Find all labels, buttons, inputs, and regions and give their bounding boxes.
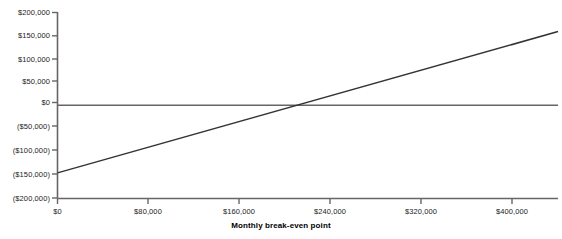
x-axis-tick-labels: $0 $80,000 $160,000 $240,000 $320,000 $4… [0, 0, 562, 239]
x-tick-label: $400,000 [496, 207, 528, 216]
x-tick-label: $0 [53, 207, 62, 216]
x-tick-label: $240,000 [314, 207, 346, 216]
x-tick-label: $80,000 [134, 207, 162, 216]
break-even-chart: $200,000 $150,000 $100,000 $50,000 $0 ($… [0, 0, 562, 239]
x-tick-label: $320,000 [405, 207, 437, 216]
x-tick-label: $160,000 [223, 207, 255, 216]
x-axis-title: Monthly break-even point [0, 221, 562, 230]
